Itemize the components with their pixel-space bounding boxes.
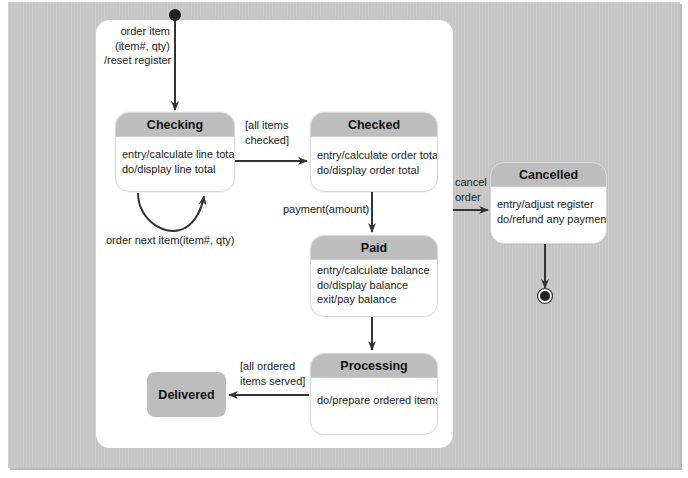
state-paid[interactable]: Paid entry/calculate balance do/display … (310, 235, 438, 317)
label-all-items-checked: [all items checked] (245, 118, 289, 147)
state-actions: entry/calculate order total do/display o… (311, 137, 437, 177)
state-actions: entry/adjust register do/refund any paym… (491, 187, 606, 226)
state-title: Paid (311, 236, 437, 260)
initial-state-icon (169, 9, 181, 21)
state-actions: do/prepare ordered items (311, 378, 437, 408)
state-processing[interactable]: Processing do/prepare ordered items (310, 353, 438, 435)
state-cancelled[interactable]: Cancelled entry/adjust register do/refun… (490, 162, 607, 244)
state-checking[interactable]: Checking entry/calculate line total do/d… (115, 112, 235, 192)
label-cancel-order: cancel order (455, 175, 487, 204)
label-order-next-item: order next item(item#, qty) (106, 233, 234, 248)
state-actions: entry/calculate line total do/display li… (116, 137, 234, 176)
label-all-ordered-items-served: [all ordered items served] (240, 359, 305, 388)
arrow-checking-self-loop (138, 193, 204, 231)
state-title: Checked (311, 113, 437, 137)
state-checked[interactable]: Checked entry/calculate order total do/d… (310, 112, 438, 192)
state-delivered[interactable]: Delivered (147, 372, 226, 417)
state-actions: entry/calculate balance do/display balan… (311, 260, 437, 307)
label-initial-transition: order item (item#, qty) /reset register (104, 24, 170, 68)
state-title: Checking (116, 113, 234, 137)
label-payment: payment(amount) (283, 202, 369, 217)
state-title: Cancelled (491, 163, 606, 187)
state-title: Processing (311, 354, 437, 378)
